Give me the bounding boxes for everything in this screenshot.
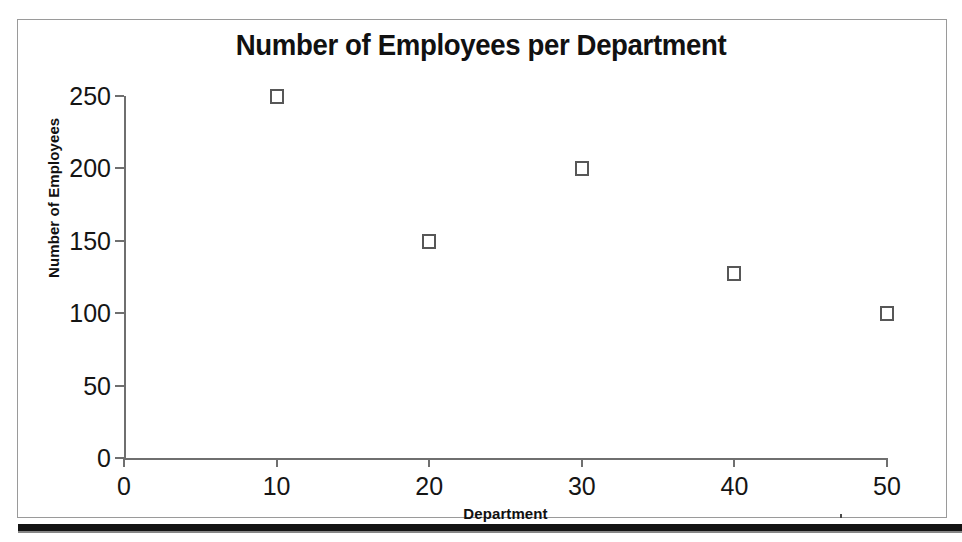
y-tick-label: 0 (97, 446, 111, 471)
scan-artifact-dot (840, 514, 842, 518)
x-axis-line (124, 458, 888, 460)
y-tick (115, 385, 124, 387)
y-tick (115, 240, 124, 242)
y-tick-label: 150 (69, 228, 111, 253)
y-tick-label: 100 (69, 301, 111, 326)
x-tick-label: 20 (415, 474, 443, 499)
x-tick (581, 458, 583, 467)
x-tick-label: 30 (568, 474, 596, 499)
data-point-marker (422, 234, 436, 249)
x-tick-label: 10 (263, 474, 291, 499)
data-point-marker (575, 161, 589, 176)
x-axis-title: Department (124, 505, 887, 522)
x-tick (733, 458, 735, 467)
page-bottom-rule (18, 524, 962, 531)
chart-title: Number of Employees per Department (38, 28, 923, 62)
x-tick (123, 458, 125, 467)
scatter-chart: Number of Employees per Department Numbe… (0, 0, 962, 542)
x-tick-label: 50 (873, 474, 901, 499)
x-tick-label: 0 (117, 474, 131, 499)
y-axis-title: Number of Employees (45, 118, 62, 278)
data-point-marker (880, 306, 894, 321)
x-tick (428, 458, 430, 467)
y-axis-line (124, 96, 126, 460)
y-tick (115, 312, 124, 314)
x-tick-label: 40 (720, 474, 748, 499)
y-tick-label: 200 (69, 156, 111, 181)
y-tick-label: 250 (69, 84, 111, 109)
page-bottom-rule-shadow (18, 531, 962, 533)
data-point-marker (727, 266, 741, 281)
y-tick (115, 95, 124, 97)
y-tick (115, 167, 124, 169)
x-tick (886, 458, 888, 467)
x-tick (276, 458, 278, 467)
y-tick-label: 50 (83, 373, 111, 398)
data-point-marker (270, 89, 284, 104)
plot-area: 050100150200250 01020304050 (124, 96, 887, 459)
